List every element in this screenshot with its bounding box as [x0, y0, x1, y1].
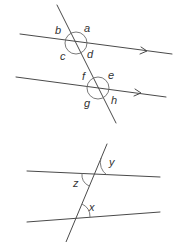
angle-arc-y	[100, 158, 107, 175]
angle-label-y: y	[108, 156, 116, 168]
angle-label-x: x	[88, 201, 95, 213]
diagram-top: b a c d f e g h	[16, 5, 172, 123]
angles-diagram: b a c d f e g h y z x	[0, 0, 179, 242]
angle-label-b: b	[55, 24, 61, 36]
angle-label-c: c	[60, 50, 66, 62]
line-4	[27, 212, 160, 222]
angle-label-f: f	[82, 70, 86, 82]
diagram-bottom: y z x	[27, 144, 160, 242]
angle-label-a: a	[84, 22, 90, 34]
angle-label-e: e	[108, 69, 114, 81]
angle-label-g: g	[84, 97, 91, 109]
angle-arc-z	[82, 173, 89, 186]
parallel-line-1	[20, 34, 172, 54]
angle-label-z: z	[72, 177, 79, 189]
angle-label-h: h	[111, 94, 117, 106]
angle-label-d: d	[87, 48, 94, 60]
